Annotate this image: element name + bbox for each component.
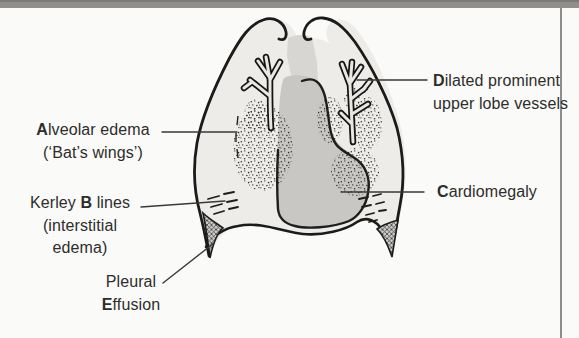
label-alveolar-edema: Alveolar edema (‘Bat’s wings’) (23, 119, 163, 164)
label-cardiomegaly-line1: Cardiomegaly (437, 181, 567, 204)
label-alveolar-edema-line2: (‘Bat’s wings’) (23, 142, 163, 165)
label-dilated-upper-lobe-vessels: Dilated prominent upper lobe vessels (433, 70, 573, 115)
label-cardiomegaly: Cardiomegaly (437, 181, 567, 204)
label-dilated-line2: upper lobe vessels (433, 93, 573, 116)
label-kerley-line2: (interstitial (10, 215, 150, 238)
label-alveolar-edema-line1: Alveolar edema (23, 119, 163, 142)
label-kerley-line3: edema) (10, 237, 150, 260)
figure-chest-xray-heart-failure: Alveolar edema (‘Bat’s wings’) Kerley B … (0, 0, 579, 338)
label-kerley-b-lines: Kerley B lines (interstitial edema) (10, 192, 150, 260)
label-dilated-line1: Dilated prominent (433, 70, 573, 93)
label-pleural-line2: Effusion (76, 294, 186, 317)
label-pleural-line1: Pleural (76, 271, 186, 294)
label-pleural-effusion: Pleural Effusion (76, 271, 186, 316)
label-kerley-line1: Kerley B lines (10, 192, 150, 215)
